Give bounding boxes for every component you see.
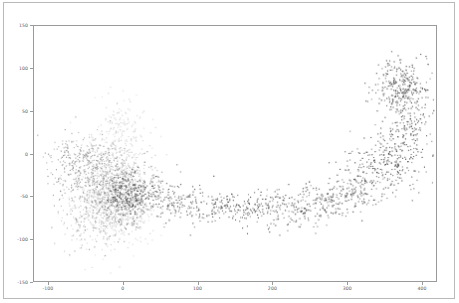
y-tick-mark [30, 25, 33, 26]
y-tick-label: 50 [3, 108, 28, 113]
x-tick-label: 200 [268, 286, 277, 291]
x-tick-mark [48, 282, 49, 285]
x-tick-label: 100 [193, 286, 202, 291]
y-tick-mark [30, 282, 33, 283]
y-tick-label: -50 [3, 194, 28, 199]
y-tick-label: 0 [3, 151, 28, 156]
y-tick-mark [30, 239, 33, 240]
y-tick-label: 100 [3, 65, 28, 70]
plot-axes [33, 25, 437, 282]
scatter-canvas [34, 26, 436, 281]
x-tick-label: -100 [43, 286, 54, 291]
x-tick-label: 400 [417, 286, 426, 291]
y-tick-label: 150 [3, 23, 28, 28]
x-tick-mark [198, 282, 199, 285]
x-tick-label: 300 [343, 286, 352, 291]
scatter-plot-figure: -150-100-50050100150-1000100200300400 [0, 0, 459, 303]
y-tick-mark [30, 68, 33, 69]
x-tick-mark [422, 282, 423, 285]
y-tick-label: -150 [3, 280, 28, 285]
x-tick-mark [123, 282, 124, 285]
y-tick-mark [30, 111, 33, 112]
y-tick-mark [30, 154, 33, 155]
x-tick-label: 0 [121, 286, 124, 291]
y-tick-label: -100 [3, 237, 28, 242]
x-tick-mark [272, 282, 273, 285]
y-tick-mark [30, 196, 33, 197]
x-tick-mark [347, 282, 348, 285]
